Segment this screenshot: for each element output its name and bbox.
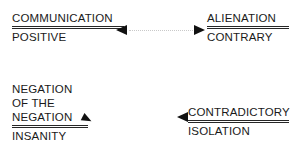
term-numerator-contradictory: CONTRADICTORY xyxy=(188,106,289,120)
connector-dotted-line xyxy=(129,30,195,32)
term-numerator-alienation: ALIENATION xyxy=(207,12,289,26)
term-negation-insanity: NEGATION OF THE NEGATION INSANITY xyxy=(12,83,88,143)
arrow-right-icon-toward-alienation xyxy=(194,25,205,35)
arrow-left-icon-toward-communication xyxy=(116,25,127,35)
term-denominator-isolation: ISOLATION xyxy=(188,123,289,138)
term-contradictory-isolation: CONTRADICTORY ISOLATION xyxy=(188,106,289,138)
term-communication-positive: COMMUNICATION POSITIVE xyxy=(12,12,124,44)
term-denominator-contrary: CONTRARY xyxy=(207,29,289,44)
term-numerator-negation-line-3: NEGATION xyxy=(12,111,88,125)
term-numerator-negation-line-2: OF THE xyxy=(12,97,88,111)
term-numerator-negation-line-1: NEGATION xyxy=(12,83,88,97)
term-alienation-contrary: ALIENATION CONTRARY xyxy=(207,12,289,44)
arrow-left-icon-toward-isolation xyxy=(177,112,188,122)
term-denominator-positive: POSITIVE xyxy=(12,29,124,44)
term-denominator-insanity: INSANITY xyxy=(12,128,88,143)
diagram-canvas: COMMUNICATION POSITIVE ALIENATION CONTRA… xyxy=(0,0,298,152)
term-numerator-communication: COMMUNICATION xyxy=(12,12,124,26)
